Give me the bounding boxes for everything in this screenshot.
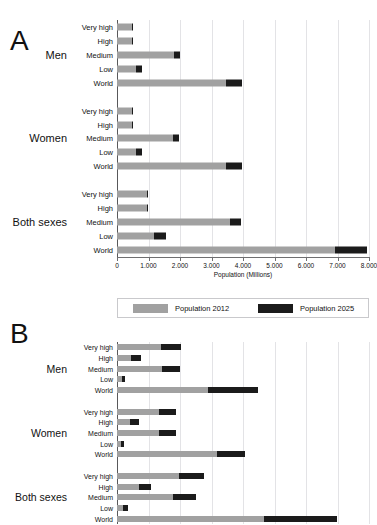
bar-segment-2025 [159, 430, 175, 436]
bar-segment-2012 [117, 430, 159, 436]
bar-segment-2025 [123, 505, 128, 511]
group-men: MenVery highHighMediumLowWorld [117, 342, 369, 395]
category-label: Low [99, 64, 113, 73]
bar-segment-2025 [132, 23, 133, 30]
group-women: WomenVery highHighMediumLowWorld [117, 406, 369, 459]
x-tick-label-0: 0 [115, 262, 119, 269]
x-axis-title: Population (Millions) [117, 271, 369, 278]
category-label: Very high [82, 106, 113, 115]
category-label: Very high [82, 190, 113, 199]
bar-segment-2012 [117, 163, 226, 170]
bar-segment-2012 [117, 451, 217, 457]
bar-segment-2012 [117, 387, 208, 393]
bar-segment-2012 [117, 355, 131, 361]
bar-segment-2025 [147, 191, 148, 198]
x-tick-label-7: 7.000 [329, 262, 345, 269]
group-label: Both sexes [15, 491, 67, 503]
panel-a-gridline-8 [369, 20, 370, 257]
legend-label: Population 2012 [175, 304, 229, 313]
bar-segment-2025 [226, 163, 242, 170]
stacked-bar [117, 355, 141, 361]
category-label: High [98, 204, 113, 213]
bar-row: Medium [117, 215, 369, 229]
bar-row: Very high [117, 471, 369, 482]
bar-row: Medium [117, 363, 369, 374]
bar-segment-2025 [122, 376, 125, 382]
stacked-bar [117, 149, 142, 156]
bar-segment-2025 [173, 135, 178, 142]
stacked-bar [117, 505, 128, 511]
bar-row: Medium [117, 132, 369, 146]
bar-row: Very high [117, 187, 369, 201]
panel-a-plot-area: MenVery highHighMediumLowWorldWomenVery … [117, 20, 369, 257]
x-tick-4 [243, 257, 244, 261]
category-label: World [94, 78, 113, 87]
x-tick-3 [212, 257, 213, 261]
group-label: Men [46, 49, 67, 61]
x-tick-6 [306, 257, 307, 261]
bar-row: Very high [117, 104, 369, 118]
bar-row: World [117, 385, 369, 396]
stacked-bar [117, 163, 242, 170]
panel-b-groups: MenVery highHighMediumLowWorldWomenVery … [117, 342, 369, 524]
category-label: World [94, 246, 113, 255]
bar-row: High [117, 34, 369, 48]
stacked-bar [117, 430, 176, 436]
category-label: Medium [88, 429, 113, 436]
bar-row: World [117, 449, 369, 460]
category-label: Medium [86, 134, 113, 143]
bar-segment-2012 [117, 23, 132, 30]
stacked-bar [117, 344, 181, 350]
legend-item-2: Population 2025 [258, 304, 354, 313]
x-tick-8 [369, 257, 370, 261]
stacked-bar [117, 135, 179, 142]
category-label: Very high [84, 472, 113, 479]
x-tick-label-8: 8.000 [361, 262, 377, 269]
cropped-header-artifact [0, 0, 370, 9]
bar-segment-2025 [179, 473, 204, 479]
x-tick-label-1: 1.000 [140, 262, 156, 269]
bar-segment-2025 [154, 233, 166, 240]
bar-row: High [117, 201, 369, 215]
bar-segment-2012 [117, 135, 173, 142]
group-women: WomenVery highHighMediumLowWorld [117, 104, 369, 174]
category-label: Low [100, 440, 113, 447]
bar-row: Low [117, 145, 369, 159]
bar-segment-2025 [136, 149, 142, 156]
stacked-bar [117, 79, 242, 86]
bar-segment-2012 [117, 516, 264, 522]
panel-b-plot-area: MenVery highHighMediumLowWorldWomenVery … [117, 342, 369, 524]
stacked-bar [117, 516, 338, 522]
bar-segment-2012 [117, 247, 335, 254]
x-tick-1 [149, 257, 150, 261]
x-tick-label-4: 4.000 [235, 262, 251, 269]
category-label: Low [100, 504, 113, 511]
bar-segment-2025 [162, 366, 180, 372]
panel-b-gridline-8 [369, 342, 370, 524]
stacked-bar [117, 366, 180, 372]
category-label: World [95, 386, 113, 393]
category-label: Low [99, 148, 113, 157]
x-tick-label-3: 3.000 [203, 262, 219, 269]
bar-row: Low [117, 229, 369, 243]
stacked-bar [117, 23, 133, 30]
bar-segment-2012 [117, 419, 130, 425]
bar-row: World [117, 513, 369, 524]
group-label: Women [31, 427, 67, 439]
bar-segment-2012 [117, 219, 230, 226]
stacked-bar [117, 494, 196, 500]
bar-row: High [117, 417, 369, 428]
bar-row: Very high [117, 342, 369, 353]
bar-row: Low [117, 503, 369, 514]
category-label: High [99, 483, 113, 490]
category-label: World [95, 451, 113, 458]
bar-segment-2012 [117, 65, 136, 72]
stacked-bar [117, 473, 204, 479]
bar-row: World [117, 76, 369, 90]
bar-segment-2025 [136, 65, 142, 72]
category-label: High [98, 36, 113, 45]
stacked-bar [117, 451, 245, 457]
bar-segment-2012 [117, 79, 226, 86]
legend-item-1: Population 2012 [133, 304, 229, 313]
